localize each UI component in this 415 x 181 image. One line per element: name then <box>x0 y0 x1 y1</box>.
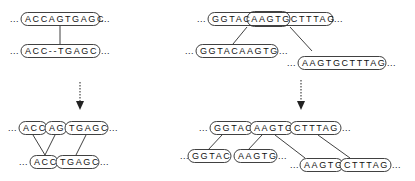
left-before-seq-1: ACCAGTGAGC <box>25 14 105 24</box>
ellipsis-left: ... <box>19 157 28 167</box>
left-after-seg-3: TGAGC <box>69 123 109 133</box>
connector-line <box>76 135 86 155</box>
right-arrow <box>297 80 305 110</box>
left-after-row-1: ... ACC AG TGAGC ... <box>8 122 118 135</box>
connector-line <box>233 27 247 44</box>
right-after-seg-7: CTTTAG <box>344 160 389 170</box>
ellipsis-right: ... <box>342 123 351 133</box>
ellipsis-left: ... <box>287 58 296 68</box>
left-after-seg-1: ACC <box>23 123 47 133</box>
ellipsis-left: ... <box>10 14 19 24</box>
arrow-head-icon <box>76 101 84 110</box>
ellipsis-right: ... <box>101 14 110 24</box>
left-panel-before: ... ACCAGTGAGC ... ... ACC--TGAGC ... <box>10 13 110 58</box>
ellipsis-left: ... <box>197 14 206 24</box>
connector-line <box>45 135 55 155</box>
connector-line <box>318 135 350 158</box>
right-after-seg-6: AAGTG <box>304 160 344 170</box>
right-after-row-1: ... GGTAC AAGTG CTTTAG ... <box>199 122 351 135</box>
left-before-seq-2: ACC--TGAGC <box>25 46 98 56</box>
ellipsis-left: ... <box>199 123 208 133</box>
ellipsis-left: ... <box>290 160 299 170</box>
ellipsis-right: ... <box>392 160 401 170</box>
ellipsis-left: ... <box>10 46 19 56</box>
left-after-seg-2: AG <box>49 123 65 133</box>
left-after-seg-4: ACC <box>34 157 58 167</box>
sequence-overlap-figure: ... ACCAGTGAGC ... ... ACC--TGAGC ... <box>0 0 415 181</box>
right-after-row-3: ... AAGTG CTTTAG ... <box>290 159 401 172</box>
right-before-seq-3: AAGTGCTTTAG <box>302 58 386 68</box>
right-before-seq-1: GGTACAAGTGCTTTAG <box>212 14 336 24</box>
right-after-seg-4: GGTAC <box>192 151 231 161</box>
left-after-row-2: ... ACC TGAGC ... <box>19 156 109 169</box>
left-before-row-1: ... ACCAGTGAGC ... <box>10 13 110 26</box>
connector-line <box>208 135 222 150</box>
left-after-seg-5: TGAGC <box>60 157 100 167</box>
right-before-row-3: ... AAGTGCTTTAG ... <box>287 57 396 70</box>
right-before-row-2: ... GGTACAAGTG ... <box>185 45 288 58</box>
right-before-row-1: ... GGTACAAGTGCTTTAG ... <box>197 12 343 27</box>
ellipsis-left: ... <box>185 46 194 56</box>
ellipsis-right: ... <box>279 46 288 56</box>
right-before-seq-2: GGTACAAGTG <box>200 46 279 56</box>
right-panel-after: ... GGTAC AAGTG CTTTAG ... ... GGTAC A <box>180 122 401 172</box>
right-panel-before: ... GGTACAAGTGCTTTAG ... ... GGTACAAGTG … <box>185 12 396 70</box>
ellipsis-right: ... <box>109 123 118 133</box>
ellipsis-right: ... <box>101 46 110 56</box>
left-arrow <box>76 82 84 110</box>
connector-line <box>248 135 262 150</box>
right-after-row-2: ... GGTAC AAGTG ... <box>180 150 287 163</box>
arrow-head-icon <box>297 101 305 110</box>
right-after-seg-2: AAGTG <box>254 123 294 133</box>
right-after-seg-1: GGTAC <box>214 123 253 133</box>
right-after-seg-3: CTTTAG <box>294 123 339 133</box>
left-panel-after: ... ACC AG TGAGC ... ... ACC TGAGC .. <box>8 122 118 169</box>
ellipsis-right: ... <box>100 157 109 167</box>
ellipsis-left: ... <box>8 123 17 133</box>
ellipsis-right: ... <box>278 151 287 161</box>
ellipsis-right: ... <box>334 14 343 24</box>
left-before-row-2: ... ACC--TGAGC ... <box>10 45 110 58</box>
right-after-seg-5: AAGTG <box>238 151 278 161</box>
ellipsis-right: ... <box>387 58 396 68</box>
connector-line <box>33 135 45 155</box>
connector-line <box>290 27 312 51</box>
